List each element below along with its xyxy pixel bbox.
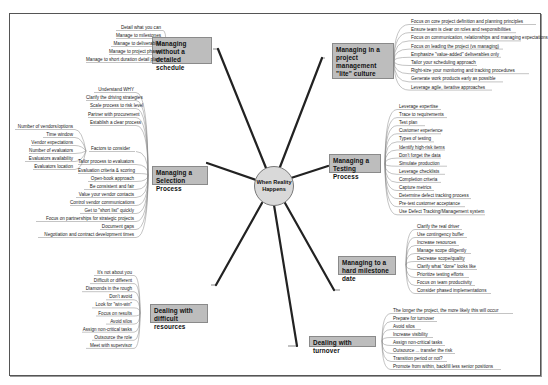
leaf-item[interactable]: Use contingency buffer <box>417 232 464 237</box>
leaf-item[interactable]: Outsource ... transfer the risk <box>393 348 452 353</box>
leaf-item[interactable]: Leverage expertise <box>399 104 438 109</box>
leaf-item[interactable]: Manage to deliverables <box>111 41 161 46</box>
leaf-item[interactable]: Transition period or not? <box>393 356 443 361</box>
leaf-item[interactable]: Focus on team productivity <box>417 280 472 285</box>
leaf-item[interactable]: Test plan <box>399 120 417 125</box>
leaf-factors-to-consider[interactable]: Factors to consider <box>91 146 130 151</box>
leaf-item[interactable]: Meet with supervisor <box>86 343 132 348</box>
leaf-item[interactable]: Focus on communication, relationships an… <box>411 35 548 40</box>
leaf-item[interactable]: Look for "win-win" <box>92 302 132 307</box>
leaf-factor-item[interactable]: Number of evaluators <box>29 148 73 153</box>
leaf-item[interactable]: Customer experience <box>399 128 443 133</box>
leaf-item[interactable]: Outsource the role <box>92 335 132 340</box>
leaf-item[interactable]: Types of testing <box>399 136 431 141</box>
leaf-item[interactable]: Increase resources <box>417 240 456 245</box>
leaf-item[interactable]: Get to "short list" quickly <box>80 208 134 213</box>
leaf-factor-item[interactable]: Time window <box>43 132 73 137</box>
leaf-item[interactable]: Manage to project phases <box>109 49 161 54</box>
leaf-item[interactable]: Focus on partnerships for strategic proj… <box>36 216 134 221</box>
leaf-item[interactable]: Prioritize testing efforts <box>417 272 464 277</box>
leaf-item[interactable]: Value your vendor contacts <box>76 192 134 197</box>
leaf-item[interactable]: Increase visibility <box>393 332 428 337</box>
leaf-item[interactable]: Consider phased implementations <box>417 288 486 293</box>
leaf-item[interactable]: Generate work products early as possible <box>411 76 496 81</box>
leaf-item[interactable]: Emphasize "value-added" deliverables onl… <box>411 52 499 57</box>
leaf-item[interactable]: Promote from within, backfill less senio… <box>393 364 493 369</box>
leaf-item[interactable]: Completion criteria <box>399 177 437 182</box>
leaf-item[interactable]: Understand WHY <box>94 87 134 92</box>
leaf-item[interactable]: Determine defect tracking process <box>399 193 469 198</box>
leaf-item[interactable]: It's not about you <box>94 270 132 275</box>
leaf-item[interactable]: Clarify the real driver <box>417 224 459 229</box>
topic-hard-milestone[interactable]: Managing to a hard milestone date <box>338 256 396 275</box>
leaf-item[interactable]: Assign non-critical tasks <box>393 340 442 345</box>
leaf-item[interactable]: Avoid silos <box>106 319 132 324</box>
leaf-item[interactable]: Don't forget the data <box>399 153 440 158</box>
leaf-item[interactable]: Focus on results <box>96 311 132 316</box>
leaf-item[interactable]: Manage to milestones <box>116 33 161 38</box>
leaf-item[interactable]: Difficult or different <box>90 278 132 283</box>
leaf-item[interactable]: Prepare for turnover <box>393 316 434 321</box>
leaf-item[interactable]: Document gaps <box>100 224 134 229</box>
topic-difficult-resources[interactable]: Dealing with difficult resources <box>150 304 208 323</box>
leaf-factor-item[interactable]: Evaluators availability <box>25 156 73 161</box>
leaf-item[interactable]: The longer the project, the more likely … <box>393 308 498 313</box>
leaf-item[interactable]: Clarify the driving strategies <box>86 95 134 100</box>
leaf-item[interactable]: Identify high-risk items <box>399 145 445 150</box>
leaf-item[interactable]: Simulate production <box>399 161 440 166</box>
leaf-item[interactable]: Don't avoid <box>106 294 132 299</box>
leaf-item[interactable]: Partner with procurement <box>88 112 134 117</box>
leaf-item[interactable]: Tailor your scheduling approach <box>411 60 476 65</box>
leaf-item[interactable]: Negotiation and contract development tim… <box>38 232 134 237</box>
leaf-item[interactable]: Manage to short duration detail plans <box>86 57 161 62</box>
leaf-factor-item[interactable]: Evaluators location <box>33 164 73 169</box>
leaf-item[interactable]: Control vendor communications <box>70 200 134 205</box>
leaf-item[interactable]: Be consistent and fair <box>84 184 134 189</box>
leaf-factor-item[interactable]: Number of vendors/options <box>15 124 73 129</box>
leaf-item[interactable]: Open-book approach <box>88 176 134 181</box>
leaf-item[interactable]: Leverage agile, iterative approaches <box>411 85 485 90</box>
topic-selection-process[interactable]: Managing a Selection Process <box>152 166 208 185</box>
leaf-item[interactable]: Establish a clear process <box>90 120 134 125</box>
leaf-item[interactable]: Clarify what "done" looks like <box>417 264 476 269</box>
leaf-item[interactable]: Avoid silos <box>393 324 415 329</box>
topic-label: Managing in a project management "lite" … <box>336 46 380 77</box>
leaf-item[interactable]: Trace to requirements <box>399 112 444 117</box>
leaf-item[interactable]: Tailor process to evaluators <box>78 159 134 164</box>
central-topic[interactable]: When Reality Happens <box>254 166 294 206</box>
topic-managing-lite-culture[interactable]: Managing in a project management "lite" … <box>332 43 394 79</box>
central-topic-label: When Reality Happens <box>255 179 293 193</box>
leaf-item[interactable]: Use Defect Tracking/Management system <box>399 209 484 214</box>
topic-turnover[interactable]: Dealing with turnover <box>309 336 376 347</box>
leaf-item[interactable]: Pre-test customer acceptance <box>399 201 460 206</box>
leaf-item[interactable]: Diamonds in the rough <box>82 286 132 291</box>
leaf-factor-item[interactable]: Vendor expectations <box>31 140 73 145</box>
leaf-item[interactable]: Decrease scope/quality <box>417 256 465 261</box>
leaf-item[interactable]: Detail what you can <box>116 25 161 30</box>
leaf-item[interactable]: Capture metrics <box>399 185 431 190</box>
leaf-item[interactable]: Scale process to risk level <box>90 103 134 108</box>
leaf-item[interactable]: Leverage checklists <box>399 169 439 174</box>
leaf-item[interactable]: Right-size your monitoring and tracking … <box>411 68 515 73</box>
leaf-item[interactable]: Evaluation criteria & scoring <box>78 168 134 173</box>
leaf-item[interactable]: Ensure team is clear on roles and respon… <box>411 27 511 32</box>
leaf-item[interactable]: Assign non-critical tasks <box>82 327 132 332</box>
leaf-item[interactable]: Manage scope diligently <box>417 248 466 253</box>
leaf-item[interactable]: Focus on leading the project (vs managin… <box>411 44 499 49</box>
topic-testing-process[interactable]: Managing a Testing Process <box>329 154 381 173</box>
leaf-item[interactable]: Focus on core project definition and pla… <box>411 19 523 24</box>
